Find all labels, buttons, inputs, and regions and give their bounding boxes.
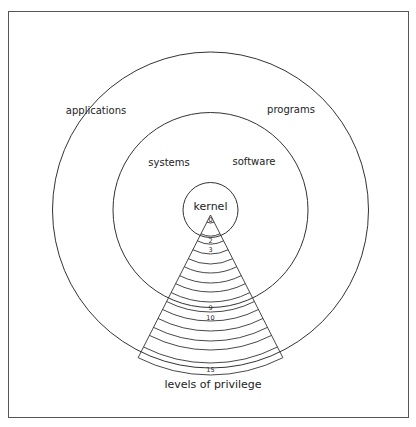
label-levels-of-privilege: levels of privilege: [164, 378, 261, 391]
level-arc-7: [176, 284, 246, 292]
label-systems: systems: [148, 157, 189, 168]
level-label-3: 3: [208, 246, 212, 254]
level-arc-12: [153, 327, 267, 341]
level-arc-13: [149, 335, 271, 350]
label-software: software: [233, 156, 276, 167]
label-kernel: kernel: [194, 200, 228, 213]
level-arc-6: [180, 276, 242, 283]
level-label-0: 0: [208, 216, 212, 224]
level-label-10: 10: [206, 314, 214, 322]
cone-right-edge: [211, 215, 283, 358]
privilege-cone: 02391015: [138, 215, 283, 375]
level-label-2: 2: [208, 237, 212, 245]
level-arc-4: [188, 259, 232, 264]
level-label-15: 15: [206, 366, 214, 374]
level-label-9: 9: [208, 304, 212, 312]
label-programs: programs: [267, 104, 315, 115]
label-applications: applications: [66, 105, 126, 116]
level-arc-8: [171, 293, 250, 302]
level-arc-5: [184, 267, 236, 273]
cone-left-edge: [138, 215, 210, 358]
level-arc-1: [201, 234, 220, 236]
privilege-rings-diagram: 02391015 applications programs systems s…: [0, 0, 416, 427]
